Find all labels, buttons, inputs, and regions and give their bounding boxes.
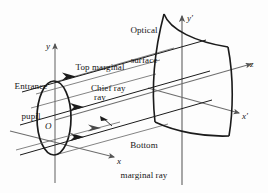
origin-label: O xyxy=(45,122,52,132)
entrance-pupil-label-line2: pupil xyxy=(3,112,59,122)
z-axis-label: z xyxy=(250,60,254,70)
top-marginal-ray-label-line1: Top marginal xyxy=(64,63,136,73)
y-axis-label: y xyxy=(46,42,50,52)
x-axis-label: x xyxy=(117,157,121,167)
bottom-marginal-ray-label-line1: Bottom xyxy=(105,141,183,151)
entrance-pupil-label-line1: Entrance xyxy=(3,82,59,92)
y-prime-axis-label: y′ xyxy=(187,14,193,24)
top-marginal-ray-label-line2: ray xyxy=(64,93,136,103)
bottom-marginal-ray-label-line2: marginal ray xyxy=(105,171,183,181)
x-prime-axis xyxy=(148,88,239,113)
chief-ray-label: Chief ray xyxy=(91,84,126,94)
x-prime-axis-label: x′ xyxy=(242,112,248,122)
optical-ray-diagram: Optical surface Entrance pupil Top margi… xyxy=(0,0,268,193)
optical-surface-label-line1: Optical xyxy=(118,26,170,36)
